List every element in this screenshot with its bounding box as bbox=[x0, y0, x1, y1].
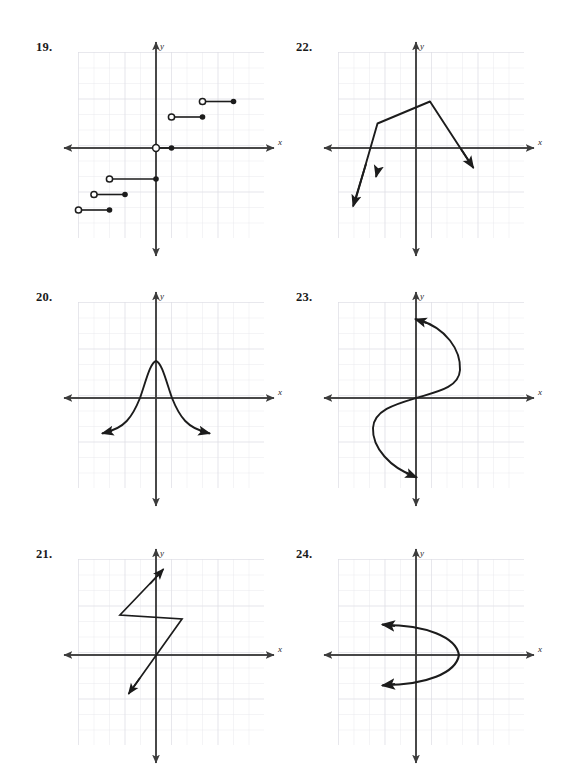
graph-23-sideways-s-curve: x y bbox=[296, 288, 546, 518]
y-axis-label: y bbox=[159, 548, 164, 558]
y-axis-label: y bbox=[419, 41, 424, 51]
grid-major bbox=[338, 52, 524, 238]
y-axis-label: y bbox=[419, 548, 424, 558]
arrow-lower-left-24 bbox=[382, 684, 395, 686]
graph-24-leftward-parabola: x y bbox=[296, 545, 546, 768]
x-axis-label: x bbox=[537, 137, 542, 147]
y-axis-label: y bbox=[419, 291, 424, 301]
grid-major bbox=[78, 559, 264, 745]
x-axis-label: x bbox=[277, 137, 282, 147]
y-axis-label: y bbox=[159, 291, 164, 301]
x-axis-label: x bbox=[537, 644, 542, 654]
x-axis-label: x bbox=[277, 387, 282, 397]
x-axis-label: x bbox=[537, 387, 542, 397]
graph-21-zigzag: x y bbox=[36, 545, 286, 768]
y-axis-label: y bbox=[159, 41, 164, 51]
grid-major bbox=[338, 559, 524, 745]
curve-left-arrow-head bbox=[376, 173, 377, 177]
arrow-upper-left-24 bbox=[382, 625, 395, 627]
graph-22-piecewise-linear: x y bbox=[296, 38, 546, 268]
grid-major bbox=[338, 302, 524, 488]
x-axis-label: x bbox=[277, 644, 282, 654]
graph-20-bell-curve: x y bbox=[36, 288, 286, 518]
graph-19-step-function: x y bbox=[36, 38, 286, 268]
